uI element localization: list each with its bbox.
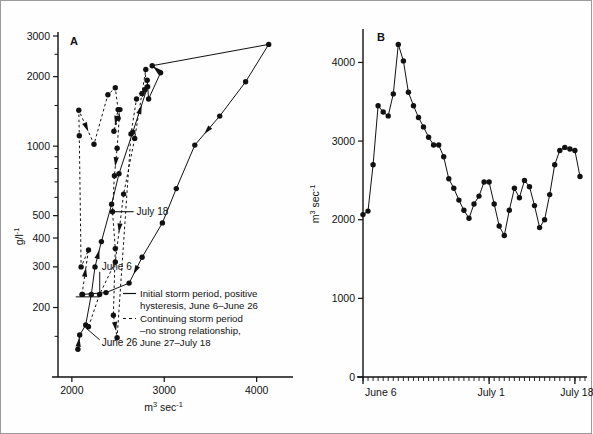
data-point	[562, 145, 567, 150]
data-point	[461, 208, 466, 213]
data-point	[416, 115, 421, 120]
direction-arrow	[117, 223, 122, 232]
data-point	[109, 202, 114, 207]
data-point	[117, 107, 122, 112]
data-point	[192, 142, 197, 147]
x-axis-label: m3 sec-1	[144, 400, 183, 413]
data-point	[143, 67, 148, 72]
data-point	[572, 148, 577, 153]
data-point	[121, 191, 126, 196]
data-point	[75, 347, 80, 352]
data-point	[132, 136, 137, 141]
data-point	[446, 176, 451, 181]
y-tick-label: 500	[32, 209, 50, 221]
y-tick-label: 1000	[27, 140, 51, 152]
data-point	[134, 96, 139, 101]
data-point	[492, 201, 497, 206]
y-tick-label: 2000	[27, 70, 51, 82]
panel-b-plot: 01000200030004000June 6July 1July 18m3 s…	[293, 1, 593, 434]
x-tick-label: 4000	[245, 384, 269, 396]
panel-b: 01000200030004000June 6July 1July 18m3 s…	[293, 1, 593, 434]
data-point	[547, 192, 552, 197]
data-point	[517, 195, 522, 200]
data-point	[77, 133, 82, 138]
data-point	[77, 332, 82, 337]
annotation-july-18: July 18	[137, 206, 169, 217]
y-axis-label: m3 sec-1	[308, 185, 321, 224]
data-point	[456, 197, 461, 202]
data-point	[577, 174, 582, 179]
data-point	[86, 247, 91, 252]
panel-a: 200300400500100020003000200030004000g/l-…	[1, 1, 301, 434]
data-point	[128, 131, 133, 136]
y-tick-label: 300	[32, 260, 50, 272]
data-point	[471, 201, 476, 206]
data-point	[91, 142, 96, 147]
x-tick-label: 3000	[153, 384, 177, 396]
data-point	[266, 42, 271, 47]
data-point	[431, 142, 436, 147]
legend-entry-initial-line1: Initial storm period, positive	[140, 288, 257, 299]
direction-arrow	[134, 265, 140, 274]
y-tick-label: 3000	[27, 30, 51, 42]
data-point	[441, 154, 446, 159]
data-point	[507, 208, 512, 213]
data-point	[537, 225, 542, 230]
data-point	[497, 223, 502, 228]
data-point	[557, 148, 562, 153]
data-point	[552, 162, 557, 167]
direction-arrow	[95, 250, 100, 260]
data-point	[103, 290, 108, 295]
data-point	[522, 178, 527, 183]
legend-entry-continuing-line2: –no strong relationship,	[140, 325, 241, 336]
data-point	[217, 113, 222, 118]
direction-arrow	[76, 338, 81, 347]
data-point	[79, 292, 84, 297]
x-tick-label: 2000	[60, 384, 84, 396]
data-point	[111, 129, 116, 134]
data-point	[401, 58, 406, 63]
panel-b-label: B	[377, 31, 385, 43]
data-point	[481, 179, 486, 184]
data-point	[126, 280, 131, 285]
data-point	[139, 255, 144, 260]
panel-a-label: A	[70, 35, 78, 47]
data-point	[502, 233, 507, 238]
legend-entry-continuing-line3: June 27–July 18	[140, 337, 211, 348]
data-point	[486, 179, 491, 184]
data-point	[92, 264, 97, 269]
data-point	[512, 186, 517, 191]
y-axis-label: g/l-1	[12, 228, 25, 246]
x-tick-label: July 1	[477, 386, 505, 398]
data-point	[113, 246, 118, 251]
y-tick-label: 4000	[332, 56, 356, 68]
y-tick-label: 1000	[332, 292, 356, 304]
data-point	[527, 184, 532, 189]
legend-entry-continuing-line1: Continuing storm period	[140, 313, 243, 324]
data-point	[426, 135, 431, 140]
annotation-june-6: June 6	[102, 261, 132, 272]
y-tick-label: 2000	[332, 213, 356, 225]
data-point	[78, 264, 83, 269]
data-point	[116, 171, 121, 176]
data-point	[105, 92, 110, 97]
data-point	[391, 91, 396, 96]
data-point	[542, 217, 547, 222]
data-point	[411, 103, 416, 108]
y-tick-label: 200	[32, 301, 50, 313]
panel-a-plot: 200300400500100020003000200030004000g/l-…	[1, 1, 301, 434]
annotation-june-26: June 26	[102, 337, 138, 348]
data-point	[99, 239, 104, 244]
data-point	[370, 162, 375, 167]
data-point	[146, 96, 151, 101]
data-point	[567, 146, 572, 151]
data-point	[375, 103, 380, 108]
data-point	[160, 220, 165, 225]
data-point	[436, 142, 441, 147]
direction-arrow	[112, 322, 117, 332]
y-tick-label: 3000	[332, 135, 356, 147]
data-point	[532, 203, 537, 208]
data-point	[110, 209, 115, 214]
y-tick-label: 0	[349, 371, 355, 383]
